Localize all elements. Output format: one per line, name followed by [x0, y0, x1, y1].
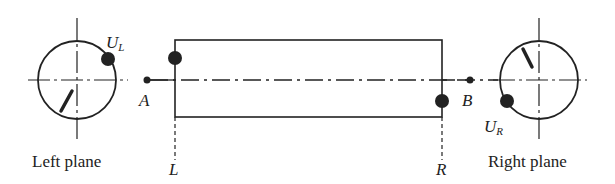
correction-mark-left: [61, 91, 72, 111]
unbalance-mass-left-rotor: [168, 51, 182, 65]
diagram-canvas: UL A B L R UR Left plane Right plane: [0, 0, 615, 184]
bearing-b-label: B: [462, 91, 473, 110]
unbalance-left-label: UL: [106, 33, 124, 53]
unbalance-mass-right: [500, 94, 514, 108]
right-plane-view: [493, 18, 587, 140]
unbalance-mass-left: [101, 52, 115, 66]
bearing-a-label: A: [138, 91, 150, 110]
plane-r-label: R: [435, 160, 447, 179]
left-plane-label: Left plane: [32, 152, 101, 171]
bearing-a-dot: [144, 77, 151, 84]
plane-l-label: L: [168, 160, 178, 179]
right-plane-label: Right plane: [488, 152, 567, 171]
rotor-body: [175, 40, 442, 117]
unbalance-right-label: UR: [484, 117, 503, 137]
unbalance-mass-right-rotor: [435, 94, 449, 108]
rotor-balancing-diagram: UL A B L R UR Left plane Right plane: [0, 0, 615, 184]
correction-mark-right: [523, 49, 532, 67]
